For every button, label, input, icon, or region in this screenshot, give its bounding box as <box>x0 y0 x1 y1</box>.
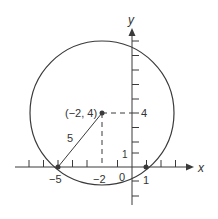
y-axis-label: y <box>127 13 135 27</box>
y-axis <box>129 28 140 205</box>
x-tick-label-neg5: −5 <box>49 173 62 185</box>
x-tick-label-1: 1 <box>143 174 149 186</box>
x-axis-arrow-icon <box>186 164 194 171</box>
radius-line <box>58 113 102 167</box>
intercept-point-neg5 <box>56 165 61 170</box>
y-tick-label-1: 1 <box>122 149 128 160</box>
origin-label: 0 <box>119 171 125 183</box>
center-label: (−2, 4) <box>65 107 97 119</box>
x-tick-label-neg2: −2 <box>93 173 106 185</box>
circle-diagram: y x (−2, 4) 5 4 1 −5 −2 0 1 <box>0 0 218 219</box>
radius-label: 5 <box>67 132 73 144</box>
x-axis <box>15 160 194 171</box>
y-axis-arrow-icon <box>129 28 136 36</box>
x-axis-label: x <box>197 161 205 175</box>
y-tick-label-4: 4 <box>141 107 147 119</box>
intercept-point-1 <box>144 165 149 170</box>
center-point <box>100 111 105 116</box>
